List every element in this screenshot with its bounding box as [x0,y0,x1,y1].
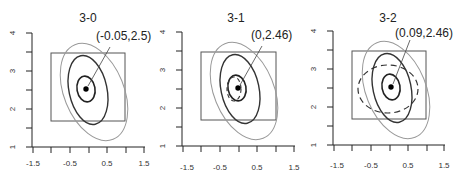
y-tick-label: 1 [309,142,318,147]
y-tick-label: 3 [309,66,318,71]
x-tick-label: -1.5 [180,163,194,172]
mean-point [235,85,240,90]
mean-point [83,86,88,91]
x-tick-label: -0.5 [63,159,77,168]
x-tick-label: -0.5 [364,161,378,170]
y-tick-label: 2 [158,105,167,110]
panel-title: 3-0 [79,11,97,25]
mean-point [388,84,393,89]
x-tick-label: 1.5 [438,161,450,170]
y-tick-label: 4 [8,30,17,35]
panel-title: 3-1 [227,11,245,25]
panel-title: 3-2 [379,11,397,25]
outer-ellipse [349,31,443,148]
panel-3-1: 3-1 -1.5 -0.5 0.5 1.5 1 2 3 4 (0,2.46) [158,11,300,172]
outer-ellipse [47,33,141,150]
x-tick-label: 0.5 [101,159,113,168]
y-tick-label: 1 [8,144,17,149]
annotation-label: (0.09,2.46) [395,26,453,40]
y-tick-label: 2 [8,106,17,111]
x-tick-label: -1.5 [26,159,40,168]
y-tick-label: 3 [158,67,167,72]
y-tick-label: 4 [309,28,318,33]
y-tick-label: 2 [309,104,318,109]
figure: 3-0 -1.5 -0.5 0.5 1.5 1 2 3 4 (-0.05,2.5… [0,0,458,186]
x-tick-label: -1.5 [330,161,344,170]
x-tick-label: -0.5 [213,163,227,172]
y-tick-label: 4 [158,29,167,34]
x-tick-label: 1.5 [288,163,300,172]
y-tick-label: 1 [158,143,167,148]
panel-3-0: 3-0 -1.5 -0.5 0.5 1.5 1 2 3 4 (-0.05,2.5… [8,11,151,168]
annotation-label: (0,2.46) [251,28,292,42]
bounding-rectangle [51,53,125,121]
annotation-label: (-0.05,2.5) [96,29,151,43]
y-tick-label: 3 [8,68,17,73]
dashed-ellipse [358,65,418,113]
annotation-leader [393,40,410,84]
outer-ellipse [197,32,291,149]
x-tick-label: 0.5 [402,161,414,170]
x-tick-label: 0.5 [251,163,263,172]
panel-3-2: 3-2 -1.5 -0.5 0.5 1.5 1 2 3 4 (0.09,2.46… [309,11,453,170]
x-tick-label: 1.5 [138,159,150,168]
